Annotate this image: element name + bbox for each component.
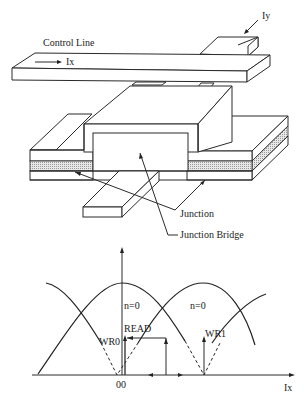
region-label-right: n=0 — [190, 300, 206, 311]
origin-label: 00 — [116, 379, 126, 390]
curve-lobe-right — [138, 283, 255, 345]
ix-label: Ix — [66, 56, 74, 67]
diagram-canvas: Iy Control Line Ix — [0, 0, 304, 401]
read-label: READ — [124, 323, 151, 334]
region-label-left: n=0 — [124, 300, 140, 311]
dashed-right — [185, 341, 220, 375]
control-line-label: Control Line — [43, 37, 95, 48]
threshold-graph: n=0 n=0 READ WR0 WR1 00 Ix — [32, 247, 295, 393]
wr1-label: WR1 — [205, 328, 226, 339]
curve-lobe-left — [46, 283, 101, 343]
iy-label: Iy — [262, 10, 270, 21]
bottom-lead — [83, 171, 159, 217]
device-illustration: Iy Control Line Ix — [12, 10, 288, 240]
junction-label: Junction — [180, 208, 214, 219]
read-path — [123, 335, 183, 377]
control-line — [12, 53, 270, 82]
x-axis-arrow-icon — [289, 373, 295, 377]
wr0-label: WR0 — [99, 336, 120, 347]
x-axis-label: Ix — [284, 382, 292, 393]
y-axis-arrow-icon — [120, 247, 124, 253]
curve-lobe-center — [38, 283, 185, 374]
dashed-left — [101, 343, 138, 375]
iy-arrow — [244, 20, 258, 34]
iy-lead — [200, 37, 258, 56]
wr1-arrow — [202, 336, 206, 375]
junction-bridge-label: Junction Bridge — [180, 229, 244, 240]
tab-left — [132, 82, 166, 85]
